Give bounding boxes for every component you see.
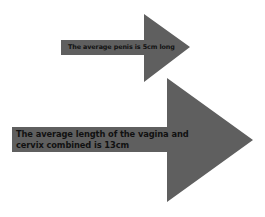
small-arrow-label: The average penis is 5cm long: [68, 42, 175, 52]
arrows-diagram: [0, 0, 265, 217]
large-arrow-label: The average length of the vagina and cer…: [16, 129, 206, 151]
